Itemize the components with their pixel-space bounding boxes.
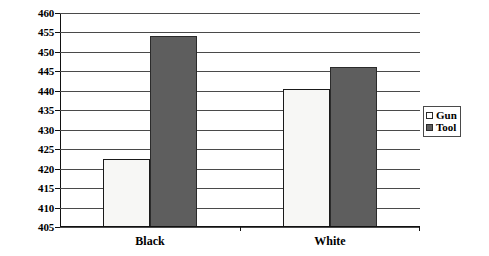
y-tick-mark-460	[55, 13, 60, 14]
x-axis-mid-tick	[240, 226, 241, 231]
y-tick-label-435: 435	[38, 105, 54, 116]
legend-label-gun: Gun	[436, 110, 457, 121]
y-tick-mark-440	[55, 91, 60, 92]
y-tick-mark-420	[55, 169, 60, 170]
bar-black-tool	[150, 36, 197, 227]
legend-label-tool: Tool	[436, 122, 456, 133]
bar-chart: 460455450445440435430425420415410405 Bla…	[0, 0, 489, 256]
legend-item-tool: Tool	[426, 122, 457, 133]
y-tick-label-445: 445	[38, 66, 54, 77]
y-tick-label-455: 455	[38, 27, 54, 38]
gridline-450	[60, 52, 420, 53]
y-tick-label-440: 440	[38, 85, 54, 96]
chart-legend: GunTool	[423, 106, 461, 137]
y-tick-label-450: 450	[38, 46, 54, 57]
y-tick-label-410: 410	[38, 202, 54, 213]
y-tick-mark-430	[55, 130, 60, 131]
x-axis-end-tick	[419, 226, 420, 231]
y-tick-label-420: 420	[38, 163, 54, 174]
bar-white-tool	[330, 67, 377, 227]
y-tick-label-430: 430	[38, 124, 54, 135]
gridline-460	[60, 13, 420, 14]
bar-black-gun	[103, 159, 150, 227]
y-tick-mark-455	[55, 32, 60, 33]
y-tick-mark-415	[55, 188, 60, 189]
y-tick-mark-405	[55, 227, 60, 228]
y-tick-label-415: 415	[38, 183, 54, 194]
y-tick-mark-450	[55, 52, 60, 53]
legend-swatch-gun-icon	[426, 112, 433, 119]
category-label-black: Black	[135, 234, 164, 249]
bar-white-gun	[283, 89, 330, 227]
y-axis-tick-labels: 460455450445440435430425420415410405	[18, 0, 54, 256]
gridline-455	[60, 32, 420, 33]
y-tick-mark-445	[55, 71, 60, 72]
category-label-white: White	[314, 234, 345, 249]
y-tick-mark-410	[55, 208, 60, 209]
y-tick-label-405: 405	[38, 222, 54, 233]
y-tick-mark-435	[55, 110, 60, 111]
y-tick-label-460: 460	[38, 8, 54, 19]
legend-swatch-tool-icon	[426, 124, 433, 131]
y-axis-line	[60, 13, 61, 227]
y-tick-mark-425	[55, 149, 60, 150]
plot-area	[60, 13, 420, 227]
y-tick-label-425: 425	[38, 144, 54, 155]
legend-item-gun: Gun	[426, 110, 457, 121]
